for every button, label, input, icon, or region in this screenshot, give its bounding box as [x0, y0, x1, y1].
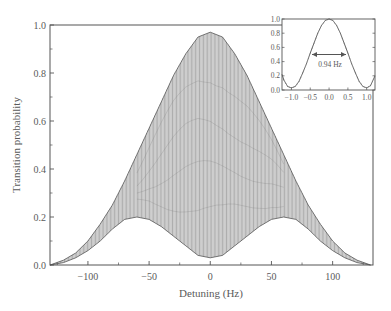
inset-point	[364, 87, 365, 88]
inset-point	[310, 53, 311, 54]
inset-point	[370, 85, 371, 86]
x-tick-label: 100	[325, 271, 340, 282]
inset-point	[355, 73, 356, 74]
inset-y-tick-label: 0.2	[271, 71, 281, 80]
inset-point	[353, 68, 354, 69]
inset-point	[312, 48, 313, 49]
inset-point	[359, 81, 360, 82]
y-tick-label: 0.4	[34, 164, 47, 175]
inset-point	[323, 22, 324, 23]
inset-point	[297, 84, 298, 85]
inset-point	[321, 25, 322, 26]
inset-point	[363, 86, 364, 87]
y-tick-label: 0.8	[34, 68, 47, 79]
x-tick-label: −100	[78, 271, 99, 282]
inset-point	[319, 29, 320, 30]
y-tick-label: 0.2	[34, 212, 47, 223]
inset-point	[298, 81, 299, 82]
inset-point	[346, 48, 347, 49]
inset-x-tick-label: −1.0	[285, 93, 299, 102]
inset-point	[314, 43, 315, 44]
main-x-ticks: −100−50050100	[57, 261, 363, 282]
inset-x-tick-label: 0.5	[343, 93, 353, 102]
inset-point	[334, 22, 335, 23]
inset-point	[332, 20, 333, 21]
inset-point	[304, 68, 305, 69]
inset-y-tick-label: 0.4	[271, 57, 281, 66]
inset-point	[342, 38, 343, 39]
inset-x-tick-label: −0.5	[303, 93, 317, 102]
inset-y-tick-label: 0.8	[271, 29, 281, 38]
fwhm-label: 0.94 Hz	[318, 60, 342, 69]
inset-y-tick-label: 0.6	[271, 43, 281, 52]
x-tick-label: 0	[208, 271, 213, 282]
y-tick-label: 0.0	[34, 260, 47, 271]
x-tick-label: 50	[266, 271, 276, 282]
inset-point	[361, 84, 362, 85]
inset-point	[357, 77, 358, 78]
inset-y-tick-label: 0.0	[271, 86, 281, 95]
inset-point	[283, 80, 284, 81]
inset-point	[347, 53, 348, 54]
inset-point	[306, 63, 307, 64]
inset-point	[315, 38, 316, 39]
x-tick-label: −50	[141, 271, 157, 282]
inset-point	[351, 63, 352, 64]
inset-point	[285, 83, 286, 84]
inset-point	[340, 33, 341, 34]
inset-point	[325, 20, 326, 21]
inset-point	[302, 73, 303, 74]
inset-point	[295, 86, 296, 87]
y-tick-label: 1.0	[34, 20, 47, 31]
inset-point	[368, 86, 369, 87]
figure: 0.00.20.40.60.81.0 −100−50050100 Detunin…	[0, 0, 391, 311]
inset-point	[338, 29, 339, 30]
main-y-axis-label: Transition probability	[10, 97, 22, 193]
y-tick-label: 0.6	[34, 116, 47, 127]
inset-plot: 0.00.20.40.60.81.0 −1.0−0.50.00.51.0 0.9…	[271, 15, 375, 102]
inset-x-tick-label: 0.0	[324, 93, 334, 102]
main-x-axis-label: Detuning (Hz)	[179, 287, 243, 300]
inset-point	[372, 81, 373, 82]
main-y-ticks: 0.00.20.40.60.81.0	[34, 20, 55, 271]
inset-y-tick-label: 1.0	[271, 15, 281, 24]
inset-point	[293, 87, 294, 88]
inset-point	[317, 33, 318, 34]
inset-x-tick-label: 1.0	[362, 93, 372, 102]
inset-point	[349, 58, 350, 59]
inset-point	[287, 86, 288, 87]
inset-point	[308, 58, 309, 59]
inset-point	[344, 43, 345, 44]
inset-point	[289, 87, 290, 88]
inset-point	[300, 77, 301, 78]
inset-point	[336, 25, 337, 26]
